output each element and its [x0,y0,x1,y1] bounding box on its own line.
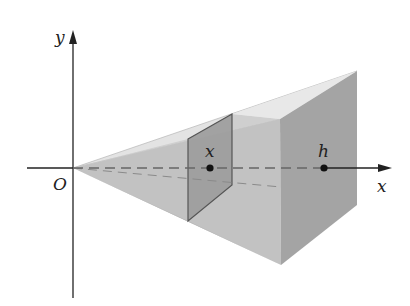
cross-section-x-label: x [205,141,215,161]
point-h [320,164,327,171]
point-x [206,164,213,171]
y-axis-arrow-icon [69,30,77,44]
pyramid-diagram: y x O x h [0,0,410,306]
height-h-label: h [318,141,329,161]
x-axis-label: x [377,176,387,196]
origin-label: O [53,174,67,194]
x-axis-arrow-icon [378,164,392,172]
y-axis-label: y [54,27,65,47]
